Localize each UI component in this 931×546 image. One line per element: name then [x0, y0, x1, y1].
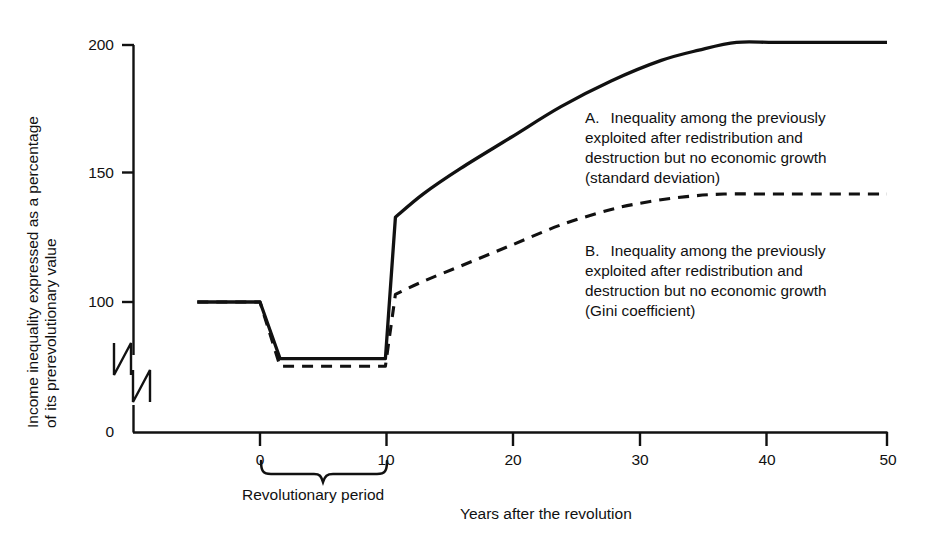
- y-axis-title: Income inequality expressed as a percent…: [24, 116, 60, 428]
- x-axis-title: Years after the revolution: [460, 505, 632, 523]
- legend-a-line1: Inequality among the previously: [610, 109, 825, 126]
- legend-a-marker: A.: [585, 109, 599, 126]
- x-axis-ticks: [260, 432, 887, 446]
- legend-entry-b: B.Inequality among the previously exploi…: [585, 241, 915, 321]
- legend-a-line3: destruction but no economic growth: [585, 149, 827, 166]
- legend-a-line2: exploited after redistribution and: [585, 129, 803, 146]
- x-tick-label-30: 30: [616, 452, 664, 468]
- y-tick-label-150: 150: [60, 165, 114, 181]
- legend-b-marker: B.: [585, 242, 599, 259]
- revolutionary-period-label: Revolutionary period: [242, 486, 384, 504]
- legend-a-line4: (standard deviation): [585, 169, 720, 186]
- chart-figure: 200 150 100 0 0 10 20 30 40 50 Income in…: [0, 0, 931, 546]
- x-tick-label-20: 20: [489, 452, 537, 468]
- y-tick-label-0: 0: [60, 424, 114, 440]
- legend-b-line1: Inequality among the previously: [610, 242, 825, 259]
- y-axis-break-marks: [114, 343, 150, 402]
- x-tick-label-40: 40: [743, 452, 791, 468]
- y-axis-title-line2: of its prerevolutionary value: [42, 116, 60, 428]
- x-tick-label-50: 50: [864, 452, 912, 468]
- x-tick-label-0: 0: [236, 452, 284, 468]
- y-axis-ticks: [122, 45, 134, 302]
- legend-b-line2: exploited after redistribution and: [585, 262, 803, 279]
- y-tick-label-200: 200: [60, 37, 114, 53]
- legend-entry-a: A.Inequality among the previously exploi…: [585, 108, 915, 188]
- legend-b-line4: (Gini coefficient): [585, 302, 695, 319]
- x-tick-label-10: 10: [362, 452, 410, 468]
- y-tick-label-100: 100: [60, 294, 114, 310]
- legend-b-line3: destruction but no economic growth: [585, 282, 827, 299]
- y-axis-title-line1: Income inequality expressed as a percent…: [24, 116, 41, 428]
